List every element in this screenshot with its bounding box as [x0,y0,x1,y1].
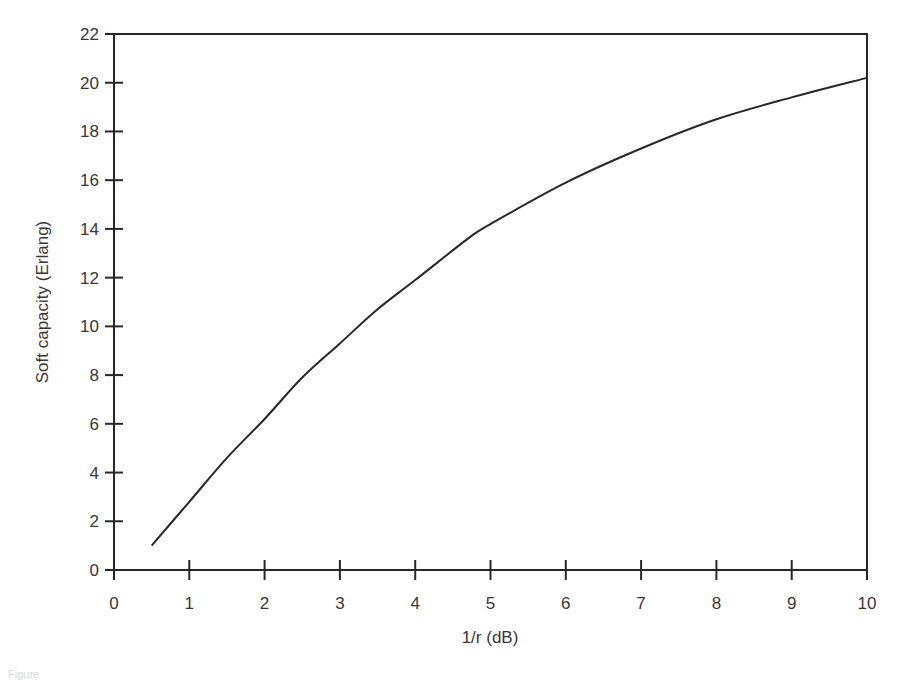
y-tick-label: 12 [80,269,99,288]
y-tick-label: 4 [90,464,99,483]
x-tick-label: 7 [636,594,645,613]
y-axis-title: Soft capacity (Erlang) [33,221,52,384]
x-tick-label: 2 [260,594,269,613]
plot-frame [114,34,867,570]
x-tick-label: 3 [335,594,344,613]
x-tick-label: 5 [486,594,495,613]
figure-caption: Figure [8,668,39,680]
y-tick-label: 18 [80,122,99,141]
x-tick-label: 9 [787,594,796,613]
y-tick-label: 0 [90,561,99,580]
soft-capacity-line [152,78,867,546]
x-axis: 012345678910 [109,560,876,613]
x-axis-title: 1/r (dB) [462,628,519,647]
chart: 012345678910 0246810121416182022 1/r (dB… [0,0,910,680]
x-tick-label: 8 [712,594,721,613]
y-axis: 0246810121416182022 [80,25,123,580]
y-tick-label: 20 [80,74,99,93]
y-tick-label: 16 [80,171,99,190]
y-tick-label: 2 [90,512,99,531]
y-tick-label: 10 [80,317,99,336]
x-tick-label: 1 [185,594,194,613]
y-tick-label: 22 [80,25,99,44]
y-tick-label: 14 [80,220,99,239]
x-tick-label: 6 [561,594,570,613]
y-tick-label: 6 [90,415,99,434]
y-tick-label: 8 [90,366,99,385]
x-tick-label: 4 [410,594,419,613]
x-tick-label: 0 [109,594,118,613]
x-tick-label: 10 [858,594,877,613]
